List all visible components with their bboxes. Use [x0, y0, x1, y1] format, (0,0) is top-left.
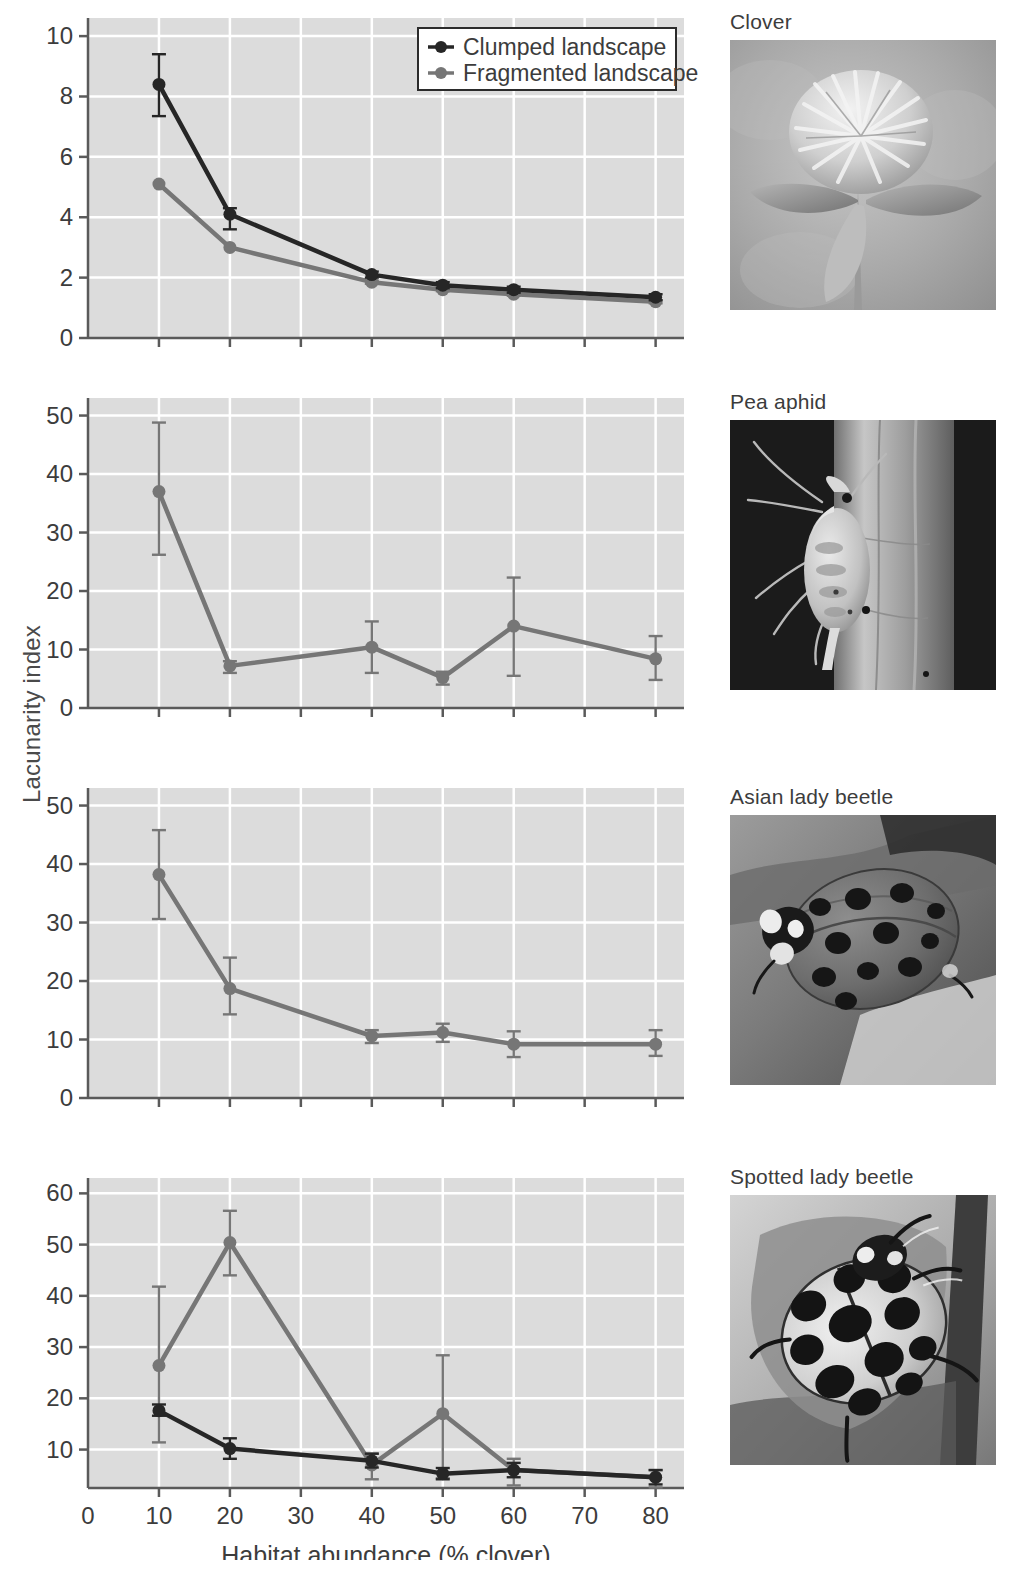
svg-text:10: 10 [46, 1436, 73, 1463]
svg-text:6: 6 [60, 143, 73, 170]
svg-text:50: 50 [429, 1502, 456, 1529]
data-point [649, 652, 662, 665]
svg-text:30: 30 [46, 519, 73, 546]
figure-root: Lacunarity index 0246810Clumped landscap… [0, 0, 1011, 1570]
legend-label: Fragmented landscape [463, 60, 698, 86]
data-point [152, 1404, 165, 1417]
svg-text:0: 0 [60, 1084, 73, 1111]
svg-text:4: 4 [60, 203, 73, 230]
svg-text:10: 10 [46, 1026, 73, 1053]
chart-panel-clover: 0246810Clumped landscapeFragmented lands… [0, 0, 716, 370]
svg-text:40: 40 [46, 850, 73, 877]
svg-text:40: 40 [46, 1282, 73, 1309]
data-point [507, 283, 520, 296]
legend-label: Clumped landscape [463, 34, 666, 60]
photo-spotted-lady-beetle [730, 1195, 996, 1465]
svg-text:2: 2 [60, 264, 73, 291]
svg-text:10: 10 [46, 636, 73, 663]
legend: Clumped landscapeFragmented landscape [418, 28, 698, 90]
svg-text:30: 30 [46, 1333, 73, 1360]
data-point [507, 1464, 520, 1477]
svg-text:70: 70 [571, 1502, 598, 1529]
plot-background [88, 398, 684, 708]
photo-caption-clover: Clover [730, 10, 1011, 34]
chart-svg: 01020304050 [0, 380, 716, 760]
data-point [152, 178, 165, 191]
svg-text:60: 60 [46, 1179, 73, 1206]
data-point [152, 1359, 165, 1372]
svg-text:10: 10 [46, 22, 73, 49]
photo-block-spotted-lady-beetle: Spotted lady beetle [716, 1165, 1011, 1465]
data-point [152, 78, 165, 91]
photo-asian-lady-beetle [730, 815, 996, 1085]
y-tick-labels: 01020304050 [46, 792, 88, 1111]
data-point [223, 241, 236, 254]
photo-block-clover: Clover [716, 10, 1011, 310]
data-point [365, 1030, 378, 1043]
data-point [436, 1407, 449, 1420]
data-point [365, 641, 378, 654]
data-point [507, 1038, 520, 1051]
svg-text:60: 60 [500, 1502, 527, 1529]
svg-text:0: 0 [81, 1502, 94, 1529]
data-point [223, 659, 236, 672]
svg-text:30: 30 [46, 909, 73, 936]
x-tick-labels [159, 1098, 656, 1107]
photo-caption-spotted-lady-beetle: Spotted lady beetle [730, 1165, 1011, 1189]
svg-text:0: 0 [60, 694, 73, 721]
svg-text:50: 50 [46, 792, 73, 819]
data-point [365, 268, 378, 281]
data-point [649, 1038, 662, 1051]
x-tick-labels [159, 338, 656, 347]
photo-caption-asian-lady-beetle: Asian lady beetle [730, 785, 1011, 809]
svg-text:20: 20 [46, 577, 73, 604]
svg-text:40: 40 [358, 1502, 385, 1529]
svg-text:20: 20 [46, 1384, 73, 1411]
svg-text:20: 20 [217, 1502, 244, 1529]
data-point [436, 671, 449, 684]
data-point [152, 868, 165, 881]
data-point [507, 620, 520, 633]
photo-column: Clover [716, 0, 1011, 1570]
data-point [436, 1467, 449, 1480]
svg-text:20: 20 [46, 967, 73, 994]
svg-text:0: 0 [60, 324, 73, 351]
svg-text:8: 8 [60, 82, 73, 109]
data-point [365, 1454, 378, 1467]
charts-column: Lacunarity index 0246810Clumped landscap… [0, 0, 716, 1570]
data-point [223, 1236, 236, 1249]
chart-panel-spotted-lady-beetle: 10203040506001020304050607080Habitat abu… [0, 1160, 716, 1560]
y-tick-labels: 0246810 [46, 22, 88, 351]
data-point [649, 1471, 662, 1484]
svg-text:50: 50 [46, 402, 73, 429]
photo-clover [730, 40, 996, 310]
data-point [223, 1442, 236, 1455]
chart-panel-asian-lady-beetle: 01020304050 [0, 770, 716, 1150]
data-point [152, 485, 165, 498]
plot-background [88, 788, 684, 1098]
svg-text:40: 40 [46, 460, 73, 487]
chart-svg: 0246810Clumped landscapeFragmented lands… [0, 0, 716, 370]
svg-text:50: 50 [46, 1231, 73, 1258]
y-tick-labels: 01020304050 [46, 402, 88, 721]
data-point [436, 279, 449, 292]
x-axis-label: Habitat abundance (% clover) [221, 1541, 550, 1560]
photo-caption-pea-aphid: Pea aphid [730, 390, 1011, 414]
photo-block-asian-lady-beetle: Asian lady beetle [716, 785, 1011, 1085]
data-point [223, 208, 236, 221]
chart-panel-pea-aphid: 01020304050 [0, 380, 716, 760]
photo-pea-aphid [730, 420, 996, 690]
svg-text:10: 10 [146, 1502, 173, 1529]
x-tick-labels: 01020304050607080 [81, 1488, 669, 1529]
svg-text:80: 80 [642, 1502, 669, 1529]
data-point [649, 291, 662, 304]
x-tick-labels [159, 708, 656, 717]
photo-block-pea-aphid: Pea aphid [716, 390, 1011, 690]
data-point [223, 982, 236, 995]
svg-text:30: 30 [288, 1502, 315, 1529]
chart-svg: 01020304050 [0, 770, 716, 1150]
data-point [436, 1026, 449, 1039]
y-tick-labels: 102030405060 [46, 1179, 88, 1462]
chart-svg: 10203040506001020304050607080Habitat abu… [0, 1160, 716, 1560]
